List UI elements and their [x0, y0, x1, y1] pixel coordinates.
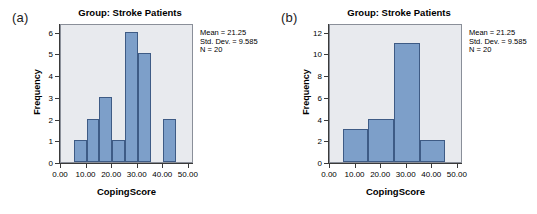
panel-b: (b) Group: Stroke Patients 024681012 0.0…	[269, 0, 537, 214]
y-tick-mark	[324, 120, 328, 121]
x-tick-label: 10.00	[76, 170, 96, 179]
panel-a-letter: (a)	[12, 10, 29, 25]
y-tick-mark	[324, 98, 328, 99]
x-tick-mark	[111, 164, 112, 168]
y-tick-label: 0	[30, 159, 53, 168]
histogram-bar	[138, 53, 151, 162]
panel-a-title: Group: Stroke Patients	[55, 7, 205, 18]
y-tick-label: 1	[30, 137, 53, 146]
y-tick-mark	[55, 141, 59, 142]
y-tick-label: 2	[299, 137, 322, 146]
panel-a-stats: Mean = 21.25 Std. Dev. = 9.585 N = 20	[200, 29, 258, 55]
x-tick-mark	[355, 164, 356, 168]
x-tick-label: 30.00	[396, 170, 416, 179]
histogram-bar	[394, 43, 420, 162]
x-tick-label: 0.00	[52, 170, 68, 179]
x-tick-mark	[137, 164, 138, 168]
x-tick-mark	[431, 164, 432, 168]
panel-a: (a) Group: Stroke Patients 0123456 0.001…	[0, 0, 268, 214]
x-tick-label: 50.00	[178, 170, 198, 179]
y-tick-mark	[324, 141, 328, 142]
panel-b-bars	[330, 25, 461, 162]
figure-canvas: (a) Group: Stroke Patients 0123456 0.001…	[0, 0, 537, 214]
panel-a-plot-area	[60, 24, 193, 163]
x-tick-mark	[380, 164, 381, 168]
x-tick-label: 50.00	[447, 170, 467, 179]
x-tick-label: 20.00	[370, 170, 390, 179]
panel-b-stat-n: N = 20	[469, 46, 527, 55]
panel-b-plot-area	[329, 24, 462, 163]
y-tick-mark	[55, 33, 59, 34]
panel-a-bars	[61, 25, 192, 162]
panel-b-y-axis-label: Frequency	[301, 50, 311, 134]
x-tick-label: 30.00	[127, 170, 147, 179]
y-tick-label: 12	[299, 28, 322, 37]
histogram-bar	[125, 32, 138, 162]
x-tick-mark	[60, 164, 61, 168]
y-tick-mark	[324, 76, 328, 77]
y-tick-label: 6	[30, 28, 53, 37]
x-tick-label: 40.00	[152, 170, 172, 179]
histogram-bar	[420, 140, 446, 162]
x-tick-label: 20.00	[101, 170, 121, 179]
panel-a-stat-n: N = 20	[200, 46, 258, 55]
panel-b-title: Group: Stroke Patients	[324, 7, 474, 18]
x-tick-mark	[162, 164, 163, 168]
x-tick-mark	[188, 164, 189, 168]
y-tick-mark	[55, 54, 59, 55]
y-tick-mark	[55, 120, 59, 121]
histogram-bar	[368, 119, 394, 162]
panel-b-letter: (b)	[281, 10, 298, 25]
x-tick-label: 0.00	[321, 170, 337, 179]
x-tick-mark	[329, 164, 330, 168]
panel-a-y-axis-line	[59, 24, 60, 164]
panel-a-x-axis-line	[59, 163, 193, 164]
panel-b-x-axis-label: CopingScore	[329, 186, 462, 197]
y-tick-mark	[324, 54, 328, 55]
panel-a-y-axis-label: Frequency	[32, 50, 42, 134]
histogram-bar	[112, 140, 125, 162]
panel-b-y-axis-line	[328, 24, 329, 164]
histogram-bar	[74, 140, 87, 162]
panel-b-x-axis-line	[328, 163, 462, 164]
y-tick-mark	[324, 163, 328, 164]
x-tick-mark	[86, 164, 87, 168]
y-tick-mark	[55, 76, 59, 77]
y-tick-label: 0	[299, 159, 322, 168]
x-tick-mark	[457, 164, 458, 168]
histogram-bar	[87, 119, 100, 162]
histogram-bar	[99, 97, 112, 162]
x-tick-label: 10.00	[345, 170, 365, 179]
y-tick-mark	[324, 33, 328, 34]
x-tick-mark	[406, 164, 407, 168]
panel-a-x-axis-label: CopingScore	[60, 186, 193, 197]
y-tick-mark	[55, 163, 59, 164]
histogram-bar	[163, 119, 176, 162]
panel-b-stats: Mean = 21.25 Std. Dev. = 9.585 N = 20	[469, 29, 527, 55]
y-tick-mark	[55, 98, 59, 99]
x-tick-label: 40.00	[421, 170, 441, 179]
histogram-bar	[343, 129, 369, 162]
